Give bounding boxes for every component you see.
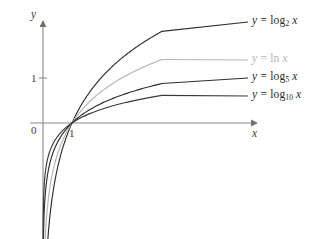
y-tick-one-label: 1 bbox=[31, 72, 37, 84]
log-functions-figure: y x 1 0 1 y = log2 xy = ln xy = log5 xy … bbox=[0, 0, 324, 239]
legend-label-log5: y = log5 x bbox=[252, 70, 298, 84]
leader-log5 bbox=[162, 78, 248, 84]
legend-label-log2: y = log2 x bbox=[252, 14, 298, 28]
leader-log2 bbox=[162, 22, 248, 31]
y-axis-label: y bbox=[31, 8, 36, 20]
x-tick-one-label: 1 bbox=[69, 127, 75, 139]
chart-canvas bbox=[0, 0, 324, 239]
x-axis-label: x bbox=[252, 127, 257, 139]
curves-group bbox=[43, 31, 162, 239]
curve-log10 bbox=[43, 95, 162, 239]
curve-log5 bbox=[43, 84, 162, 239]
legend-leader-lines bbox=[162, 22, 248, 96]
legend-label-ln: y = ln x bbox=[252, 52, 288, 64]
x-axis-arrowhead bbox=[251, 120, 258, 127]
legend-label-log10: y = log10 x bbox=[252, 88, 301, 102]
origin-label: 0 bbox=[31, 124, 37, 136]
leader-log10 bbox=[162, 95, 248, 96]
y-axis-arrowhead bbox=[40, 20, 47, 27]
curve-log2 bbox=[47, 31, 162, 239]
